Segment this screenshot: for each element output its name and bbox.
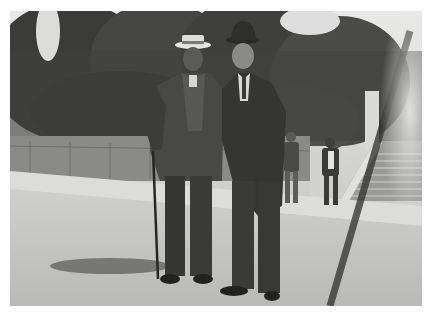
shadow <box>50 258 170 274</box>
photo-scene <box>10 11 422 306</box>
photograph <box>10 11 422 306</box>
